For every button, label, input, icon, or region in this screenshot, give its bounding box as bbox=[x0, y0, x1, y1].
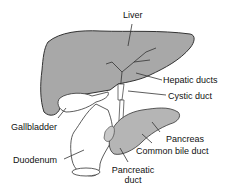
label-common-bile-duct: Common bile duct bbox=[136, 146, 209, 156]
label-pancreatic-duct-line1: Pancreatic bbox=[108, 165, 158, 175]
label-pancreatic-duct: Pancreatic duct bbox=[108, 165, 158, 185]
label-cystic-duct: Cystic duct bbox=[168, 91, 212, 101]
label-duodenum: Duodenum bbox=[13, 155, 57, 165]
label-gallbladder: Gallbladder bbox=[11, 122, 57, 132]
label-pancreatic-duct-line2: duct bbox=[108, 175, 158, 185]
label-hepatic-ducts: Hepatic ducts bbox=[163, 75, 218, 85]
label-liver: Liver bbox=[123, 10, 143, 20]
label-pancreas: Pancreas bbox=[166, 134, 204, 144]
